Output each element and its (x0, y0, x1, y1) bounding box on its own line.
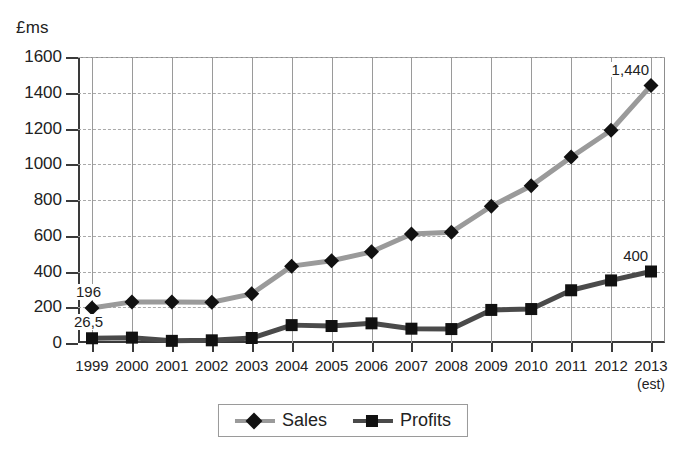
y-axis-tick (66, 236, 78, 238)
chart-legend: Sales Profits (218, 404, 468, 437)
data-point-profits-2005[interactable] (326, 320, 338, 332)
x-axis-tick (92, 343, 94, 352)
data-point-profits-2012[interactable] (605, 274, 617, 286)
x-axis-tick-label: 2007 (395, 357, 428, 374)
x-axis-tick-label: 2010 (515, 357, 548, 374)
y-axis-title: £ms (16, 18, 49, 38)
x-axis-tick (332, 343, 334, 352)
y-axis-tick-label: 1200 (24, 119, 62, 139)
data-point-profits-1999[interactable] (86, 332, 98, 344)
y-axis-tick-label: 1000 (24, 154, 62, 174)
x-axis-tick (531, 343, 533, 352)
data-point-profits-2010[interactable] (525, 303, 537, 315)
x-axis-tick-label: 2003 (235, 357, 268, 374)
y-axis-tick (66, 307, 78, 309)
data-point-profits-2008[interactable] (445, 323, 457, 335)
series-line-sales (92, 86, 651, 308)
x-axis-tick-label: 2006 (355, 357, 388, 374)
x-axis-tick (651, 343, 653, 352)
x-axis-tick (611, 343, 613, 352)
y-axis-tick-label: 0 (53, 333, 62, 353)
data-point-profits-2002[interactable] (206, 334, 218, 346)
legend-marker-diamond-icon (235, 414, 275, 428)
x-axis-tick (252, 343, 254, 352)
data-label-profits-1999: 26,5 (73, 314, 104, 330)
x-axis-tick-label: 2000 (115, 357, 148, 374)
y-axis-tick (66, 57, 78, 59)
legend-marker-square-icon (353, 414, 393, 428)
data-point-profits-2000[interactable] (126, 332, 138, 344)
x-axis-tick-label: 2008 (435, 357, 468, 374)
x-axis-tick-label: 2011 (555, 357, 587, 374)
x-axis-tick (132, 343, 134, 352)
data-label-profits-2013: 400 (622, 248, 649, 264)
y-axis-tick-label: 1600 (24, 47, 62, 67)
data-point-sales-2002[interactable] (204, 295, 219, 310)
data-point-profits-2007[interactable] (405, 323, 417, 335)
chart-container: £ms 02004006008001000120014001600 199920… (0, 0, 686, 452)
x-axis-tick (451, 343, 453, 352)
data-point-profits-2009[interactable] (485, 304, 497, 316)
x-axis-tick-label: 2013(est) (634, 357, 667, 392)
series-lines (78, 57, 665, 343)
data-point-profits-2006[interactable] (366, 317, 378, 329)
data-point-profits-2001[interactable] (166, 335, 178, 347)
x-axis-tick-label: 2004 (275, 357, 308, 374)
legend-item-sales[interactable]: Sales (235, 410, 327, 431)
y-axis-tick (66, 129, 78, 131)
data-label-sales-2013: 1,440 (611, 62, 651, 78)
data-point-sales-2005[interactable] (324, 253, 339, 268)
legend-label-sales: Sales (282, 410, 327, 431)
data-point-sales-2000[interactable] (124, 294, 139, 309)
y-axis-tick (66, 200, 78, 202)
x-axis-estimate-note: (est) (634, 376, 667, 392)
x-axis-tick-label: 2001 (155, 357, 188, 374)
series-line-profits (92, 272, 651, 341)
y-axis-tick (66, 164, 78, 166)
x-axis-tick-label: 2009 (475, 357, 508, 374)
x-axis-tick (491, 343, 493, 352)
x-axis-tick (411, 343, 413, 352)
y-axis-tick-label: 400 (34, 262, 62, 282)
y-axis-tick-label: 1400 (24, 83, 62, 103)
legend-label-profits: Profits (400, 410, 451, 431)
x-axis-tick (372, 343, 374, 352)
data-point-sales-2007[interactable] (404, 226, 419, 241)
data-label-sales-1999: 196 (75, 284, 102, 300)
plot-area: 02004006008001000120014001600 1999200020… (78, 57, 665, 343)
x-axis-tick-label: 2012 (594, 357, 627, 374)
x-axis-tick (292, 343, 294, 352)
x-axis-tick (571, 343, 573, 352)
y-axis-tick-label: 800 (34, 190, 62, 210)
data-point-profits-2013[interactable] (645, 266, 657, 278)
data-point-profits-2011[interactable] (565, 284, 577, 296)
y-axis-tick-label: 200 (34, 297, 62, 317)
x-axis-tick-label: 2002 (195, 357, 228, 374)
y-axis-tick-label: 600 (34, 226, 62, 246)
y-axis-tick (66, 272, 78, 274)
data-point-profits-2004[interactable] (286, 319, 298, 331)
y-axis-tick (66, 343, 78, 345)
y-axis-tick (66, 93, 78, 95)
x-axis-tick-label: 1999 (75, 357, 108, 374)
data-point-sales-2001[interactable] (164, 294, 179, 309)
legend-item-profits[interactable]: Profits (353, 410, 451, 431)
data-point-profits-2003[interactable] (246, 332, 258, 344)
x-axis-tick-label: 2005 (315, 357, 348, 374)
data-point-sales-2006[interactable] (364, 244, 379, 259)
